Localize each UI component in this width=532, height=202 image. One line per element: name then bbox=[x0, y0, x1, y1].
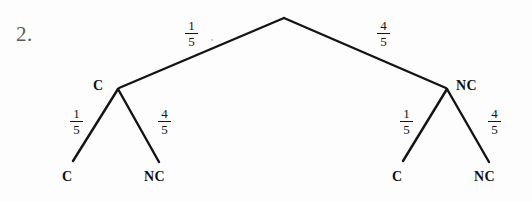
fraction-denominator: 5 bbox=[378, 35, 389, 48]
node-label-left-c: C bbox=[93, 79, 103, 93]
fraction-numerator: 1 bbox=[186, 19, 197, 32]
fraction-numerator: 4 bbox=[489, 107, 500, 120]
probability-right-left: 1 5 bbox=[400, 107, 413, 137]
leaf-label-right-left-c: C bbox=[392, 170, 402, 184]
leaf-label-right-right-nc: NC bbox=[474, 170, 495, 184]
leaf-label-left-left-c: C bbox=[62, 170, 72, 184]
fraction-numerator: 4 bbox=[378, 19, 389, 32]
problem-number: 2. bbox=[16, 24, 33, 45]
node-label-right-nc: NC bbox=[456, 79, 477, 93]
fraction-denominator: 5 bbox=[186, 35, 197, 48]
fraction-numerator: 1 bbox=[71, 107, 82, 120]
leaf-label-left-right-nc: NC bbox=[144, 170, 165, 184]
probability-left-left: 1 5 bbox=[70, 107, 83, 137]
branch-root-to-left bbox=[119, 18, 284, 88]
fraction-denominator: 5 bbox=[489, 123, 500, 136]
probability-root-left: 1 5 bbox=[185, 19, 198, 49]
scan-speck bbox=[211, 39, 213, 41]
fraction-denominator: 5 bbox=[159, 123, 170, 136]
fraction-numerator: 4 bbox=[159, 107, 170, 120]
fraction-denominator: 5 bbox=[71, 123, 82, 136]
branch-right-to-rightleaf bbox=[447, 89, 489, 162]
branch-root-to-right bbox=[284, 18, 446, 88]
probability-left-right: 4 5 bbox=[158, 107, 171, 137]
fraction-denominator: 5 bbox=[401, 123, 412, 136]
probability-root-right: 4 5 bbox=[377, 19, 390, 49]
tree-branches bbox=[0, 0, 532, 202]
branch-left-to-rightleaf bbox=[118, 89, 159, 162]
probability-right-right: 4 5 bbox=[488, 107, 501, 137]
probability-tree-diagram: 2. 1 5 4 5 C NC 1 5 4 5 1 5 4 5 C NC C N bbox=[0, 0, 532, 202]
fraction-numerator: 1 bbox=[401, 107, 412, 120]
